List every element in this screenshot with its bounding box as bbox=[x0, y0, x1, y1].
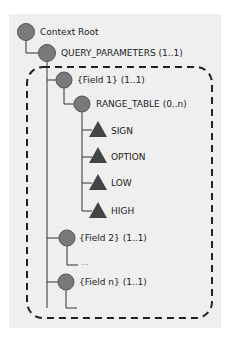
field-1-node-icon bbox=[56, 72, 72, 88]
sign-triangle-icon bbox=[89, 121, 107, 137]
range-table-label: RANGE_TABLE (0..n) bbox=[96, 99, 187, 109]
field-n-label: {Field n} (1..1) bbox=[79, 277, 147, 287]
field-2-node-icon bbox=[59, 230, 75, 246]
high-triangle-icon bbox=[89, 202, 107, 218]
ellipsis-label: ... bbox=[81, 258, 89, 268]
option-triangle-icon bbox=[89, 147, 107, 163]
field-1-label: {Field 1} (1..1) bbox=[77, 75, 145, 85]
high-label: HIGH bbox=[111, 206, 134, 216]
field-2-label: {Field 2} (1..1) bbox=[79, 233, 147, 243]
range-table-node-icon bbox=[74, 96, 90, 112]
option-label: OPTION bbox=[111, 152, 145, 162]
query-parameters-node-icon bbox=[39, 45, 56, 62]
low-triangle-icon bbox=[89, 174, 107, 190]
context-root-node-icon bbox=[18, 24, 35, 41]
field-n-node-icon bbox=[58, 274, 74, 290]
sign-label: SIGN bbox=[111, 126, 133, 136]
query-parameters-label: QUERY_PARAMETERS (1..1) bbox=[61, 48, 183, 58]
low-label: LOW bbox=[111, 178, 132, 188]
context-root-label: Context Root bbox=[40, 27, 99, 37]
